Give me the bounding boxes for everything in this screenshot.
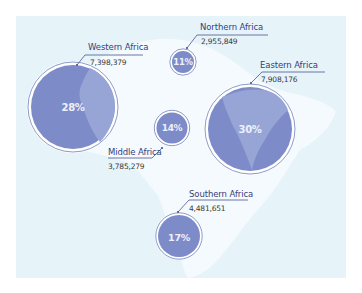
- percent-western-africa: 28%: [61, 102, 84, 113]
- label-eastern-africa: Eastern Africa: [260, 60, 318, 70]
- label-northern-africa: Northern Africa: [200, 22, 263, 32]
- value-northern-africa: 2,955,849: [201, 37, 237, 46]
- value-middle-africa: 3,785,279: [108, 162, 144, 171]
- percent-northern-africa: 11%: [173, 57, 192, 67]
- value-southern-africa: 4,481,651: [189, 204, 225, 213]
- label-middle-africa: Middle Africa: [108, 147, 162, 157]
- percent-middle-africa: 14%: [162, 123, 183, 133]
- percent-eastern-africa: 30%: [238, 124, 261, 135]
- percent-southern-africa: 17%: [168, 232, 190, 243]
- value-western-africa: 7,398,379: [90, 58, 126, 67]
- value-eastern-africa: 7,908,176: [261, 75, 297, 84]
- label-southern-africa: Southern Africa: [189, 189, 253, 199]
- label-western-africa: Western Africa: [88, 42, 148, 52]
